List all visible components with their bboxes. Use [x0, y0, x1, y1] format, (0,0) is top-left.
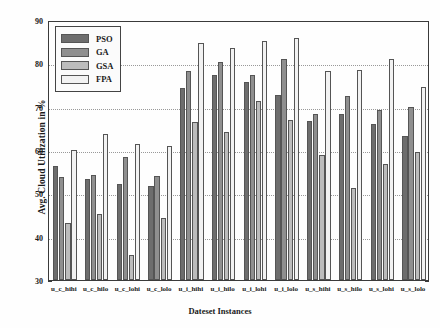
- bar: [408, 107, 413, 280]
- bar: [250, 75, 255, 280]
- y-tick-label: 30: [23, 277, 43, 286]
- bar: [275, 95, 280, 280]
- bar: [65, 223, 70, 280]
- bar: [294, 38, 299, 280]
- bar: [351, 188, 356, 280]
- bar: [377, 110, 382, 280]
- y-tick-label: 80: [23, 60, 43, 69]
- legend-swatch-icon: [61, 61, 89, 70]
- legend-item[interactable]: FPA: [61, 73, 113, 85]
- bar: [402, 136, 407, 280]
- bar: [244, 82, 249, 280]
- bar: [339, 114, 344, 280]
- legend-swatch-icon: [61, 48, 89, 57]
- y-tick-mark: [48, 281, 52, 282]
- bar: [212, 75, 217, 280]
- bar: [53, 166, 58, 280]
- bar: [230, 48, 235, 280]
- gridline: [49, 109, 428, 110]
- y-tick-label: 50: [23, 190, 43, 199]
- bar: [91, 175, 96, 280]
- bar: [224, 132, 229, 280]
- bar: [383, 164, 388, 280]
- bar: [421, 87, 426, 280]
- bar: [186, 71, 191, 280]
- bar: [180, 88, 185, 280]
- bar: [357, 70, 362, 280]
- legend-swatch-icon: [61, 34, 89, 43]
- bar: [345, 96, 350, 280]
- bar: [371, 124, 376, 280]
- bar: [313, 114, 318, 280]
- legend-label: GSA: [96, 61, 113, 71]
- bar: [389, 59, 394, 280]
- bar: [71, 150, 76, 280]
- bar: [192, 122, 197, 280]
- bar: [59, 177, 64, 280]
- chart-figure: Avg. Cloud Utilization in % Dateset Inst…: [0, 0, 440, 328]
- bar: [129, 255, 134, 280]
- y-tick-label: 60: [23, 147, 43, 156]
- bar: [85, 179, 90, 280]
- legend-item[interactable]: GSA: [61, 60, 113, 72]
- bar: [97, 214, 102, 280]
- legend-swatch-icon: [61, 75, 89, 84]
- bar: [325, 71, 330, 280]
- bar: [148, 186, 153, 280]
- legend-label: FPA: [96, 74, 112, 84]
- x-axis-label: Dateset Instances: [0, 306, 440, 316]
- y-tick-label: 90: [23, 17, 43, 26]
- bar: [123, 157, 128, 280]
- bar: [319, 155, 324, 280]
- bar: [167, 146, 172, 280]
- y-tick-label: 70: [23, 103, 43, 112]
- bar: [256, 101, 261, 280]
- y-tick-mark: [425, 281, 429, 282]
- x-tick-label: u_s_lolo: [393, 285, 433, 293]
- bar: [288, 120, 293, 280]
- legend-item[interactable]: GA: [61, 46, 113, 58]
- bar: [135, 144, 140, 280]
- bar: [415, 152, 420, 280]
- legend-label: PSO: [96, 34, 113, 44]
- bar: [307, 121, 312, 280]
- bar: [281, 59, 286, 280]
- bar: [198, 43, 203, 280]
- legend-item[interactable]: PSO: [61, 33, 113, 45]
- bar: [262, 41, 267, 280]
- bar: [161, 218, 166, 280]
- bar: [103, 134, 108, 280]
- bar: [218, 62, 223, 280]
- legend-label: GA: [96, 47, 109, 57]
- y-tick-label: 40: [23, 233, 43, 242]
- chart-legend: PSO GA GSA FPA: [55, 26, 121, 92]
- bar: [154, 176, 159, 280]
- bar: [117, 184, 122, 280]
